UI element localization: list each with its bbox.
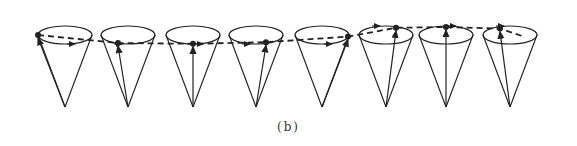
spin-vector-arrow bbox=[500, 32, 510, 107]
spin-cone bbox=[229, 26, 283, 107]
spin-cone bbox=[166, 26, 220, 107]
wave-dashed-line bbox=[38, 27, 524, 44]
spin-cone bbox=[419, 24, 473, 107]
spin-vector-arrow bbox=[256, 45, 266, 107]
spin-cone bbox=[359, 25, 413, 107]
figure-caption: (b) bbox=[0, 120, 577, 134]
spin-vector-arrow bbox=[118, 46, 128, 107]
spin-cone bbox=[101, 26, 155, 107]
spin-vector-arrow bbox=[386, 31, 396, 107]
spin-cone bbox=[483, 26, 537, 107]
spin-vector-arrow bbox=[38, 38, 65, 107]
spin-vector-arrow bbox=[322, 40, 348, 107]
